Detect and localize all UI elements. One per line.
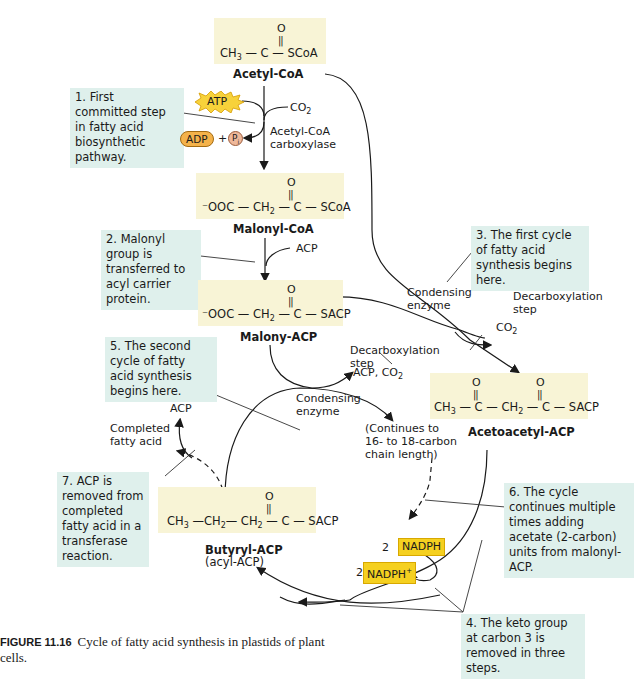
malonyl-coa-name: Malonyl-CoA — [233, 222, 314, 236]
note-7: 7. ACP is removed from completed fatty a… — [57, 472, 149, 567]
malonyl-acp-structure: O || ⁻OOC — CH2 — C — SACP — [198, 280, 343, 326]
co2-output-label: CO2 — [496, 321, 517, 338]
acyl-acp-subname: (acyl-ACP) — [205, 556, 264, 569]
malonyl-coa-structure: O || ⁻OOC — CH2 — C — SCoA — [196, 173, 344, 219]
nadp-coefficient: 2 — [356, 566, 363, 579]
nadph-coefficient: 2 — [382, 541, 389, 554]
plus-sign: + — [218, 132, 227, 145]
malonyl-acp-formula: ⁻OOC — CH2 — C — SACP — [202, 307, 351, 323]
nadp-badge: NADPH+ — [363, 562, 416, 584]
adp-badge: ADP — [180, 131, 214, 147]
acetoacetyl-acp-formula: CH3 — C — CH2 — C — SACP — [434, 400, 599, 416]
double-bond: || — [266, 504, 271, 514]
double-bond: || — [288, 297, 293, 307]
malonyl-coa-formula: ⁻OOC — CH2 — C — SCoA — [202, 200, 351, 216]
nadph-badge: NADPH — [398, 538, 445, 556]
note-5: 5. The second cycle of fatty acid synthe… — [105, 337, 217, 402]
acetoacetyl-acp-name: Acetoacetyl-ACP — [468, 425, 575, 439]
co2-input-label: CO2 — [290, 101, 311, 118]
acetyl-coa-structure: O || CH3 — C — SCoA — [214, 18, 326, 64]
double-bond-1: || — [473, 390, 478, 400]
oxygen-label-2: O — [536, 376, 545, 389]
atp-label: ATP — [207, 95, 227, 108]
completed-fatty-acid-label: Completedfatty acid — [110, 422, 170, 448]
double-bond-2: || — [537, 390, 542, 400]
butyryl-acp-structure: O || CH3 —CH2— CH2 — C — SACP — [158, 487, 316, 533]
acetyl-coa-name: Acetyl-CoA — [233, 67, 303, 81]
note-4: 4. The keto group at carbon 3 is removed… — [461, 614, 585, 679]
figure-caption: FIGURE 11.16Cycle of fatty acid synthesi… — [0, 634, 330, 666]
note-2: 2. Malonyl group is transferred to acyl … — [101, 230, 201, 310]
butyryl-acp-formula: CH3 —CH2— CH2 — C — SACP — [167, 514, 338, 530]
acp-released-label: ACP — [170, 402, 192, 415]
figure-number: FIGURE 11.16 — [0, 636, 72, 648]
double-bond: || — [288, 190, 293, 200]
decarboxylation-label-1: Decarboxylationstep — [513, 290, 603, 316]
acetoacetyl-acp-structure: O || O || CH3 — C — CH2 — C — SACP — [430, 373, 588, 419]
note-6: 6. The cycle continues multiple times ad… — [504, 483, 634, 578]
oxygen-label: O — [287, 176, 296, 189]
acp-co2-output-label: ACP, CO2 — [353, 366, 403, 383]
carboxylase-label-1: Acetyl-CoA — [270, 125, 330, 138]
oxygen-label: O — [287, 283, 296, 296]
oxygen-label: O — [277, 22, 286, 35]
double-bond: || — [278, 36, 283, 46]
oxygen-label: O — [265, 490, 274, 503]
note-3: 3. The first cycle of fatty acid synthes… — [471, 226, 589, 291]
condensing-enzyme-label-1: Condensingenzyme — [407, 286, 472, 312]
condensing-enzyme-label-2: Condensingenzyme — [296, 392, 361, 418]
acetyl-coa-formula: CH3 — C — SCoA — [220, 46, 318, 62]
phosphate-badge: Pi — [228, 131, 243, 146]
note-1: 1. First committed step in fatty acid bi… — [70, 88, 184, 168]
continues-label: (Continues to16- to 18-carbonchain lengt… — [365, 422, 457, 461]
malonyl-acp-name: Malony-ACP — [240, 330, 317, 344]
carboxylase-label-2: carboxylase — [270, 138, 336, 151]
acp-input-label: ACP — [296, 242, 318, 255]
oxygen-label-1: O — [472, 376, 481, 389]
